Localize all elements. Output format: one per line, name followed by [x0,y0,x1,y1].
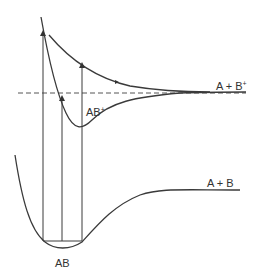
potential-energy-diagram: AB+ A + B+ A + B AB [0,0,258,280]
ion-bound-curve [41,17,246,127]
label-a-b: A + B [207,177,234,189]
diagram-svg [0,0,258,280]
label-ab: AB [55,257,70,269]
label-ab-plus: AB+ [86,106,105,118]
label-a-b-plus: A + B+ [216,80,247,92]
ground-state-curve [15,155,240,248]
ion-repulsive-curve [49,35,210,92]
